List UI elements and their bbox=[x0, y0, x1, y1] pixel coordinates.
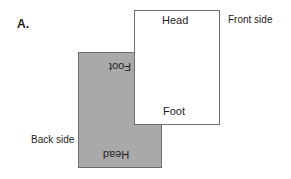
front-sheet-head-label: Head bbox=[162, 14, 188, 26]
back-side-label: Back side bbox=[31, 134, 74, 145]
back-sheet-head-label: Head bbox=[103, 149, 129, 161]
front-side-label: Front side bbox=[228, 14, 272, 25]
front-sheet-foot-label: Foot bbox=[163, 105, 185, 117]
panel-label: A. bbox=[17, 17, 29, 31]
back-sheet-foot-label: Foot bbox=[109, 61, 131, 73]
front-sheet: Head Foot bbox=[134, 10, 220, 125]
